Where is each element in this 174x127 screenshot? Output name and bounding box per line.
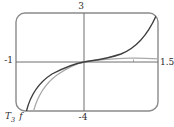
plot-canvas (0, 0, 174, 127)
curve-label-t3-subscript: 3 (11, 116, 15, 124)
calculator-screen-figure: 3 -1 1.5 -4 T3f (0, 0, 174, 127)
curve-label-f: f (19, 111, 22, 121)
curve-labels: T3f (5, 111, 23, 122)
curve-f (33, 58, 158, 113)
x-max-label: 1.5 (160, 57, 174, 67)
curve-t3 (26, 16, 156, 113)
y-max-label: 3 (74, 1, 88, 11)
y-min-label: -4 (74, 112, 92, 122)
x-min-label: -1 (0, 55, 13, 65)
